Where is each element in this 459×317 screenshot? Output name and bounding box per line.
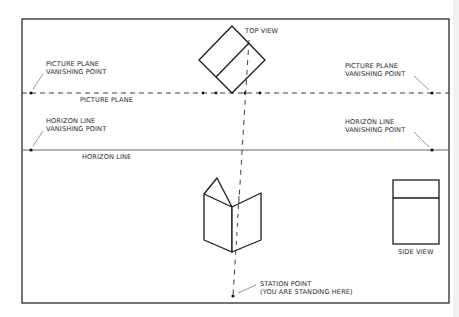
top-view-label: TOP VIEW [245,27,278,35]
side-view-label: SIDE VIEW [398,248,434,256]
hl-vanishing-point-right [430,148,433,151]
side-view-shape [393,180,439,244]
perspective-diagram: TOP VIEW PICTURE PLANE VANISHING POINT P… [0,0,459,317]
hl-vp-right-label-line1: HORIZON LINE [345,118,394,126]
hl-vanishing-point-left [29,148,32,151]
picture-plane-label: PICTURE PLANE [80,96,133,104]
station-point [231,294,234,297]
hl-vp-left-label-line2: VANISHING POINT [46,125,106,133]
pp-vp-right-label-line2: VANISHING POINT [345,70,405,78]
pp-intersection-dot-2 [215,92,218,95]
pp-vp-left-label-line1: PICTURE PLANE [46,60,99,68]
pp-vanishing-point-right [430,91,433,94]
pp-vanishing-point-left [29,91,32,94]
station-point-label-line2: (YOU ARE STANDING HERE) [260,288,353,296]
pp-intersection-dot-1 [202,92,205,95]
hl-vp-right-leader [414,132,429,147]
pp-vp-left-leader [33,74,43,89]
diagram-canvas [0,0,459,317]
horizon-line-label: HORIZON LINE [82,153,131,161]
station-point-leader [238,285,256,293]
pp-vp-right-label-line1: PICTURE PLANE [345,62,398,70]
pp-vp-right-leader [414,76,429,90]
station-point-label-line1: STATION POINT [260,280,311,288]
pp-intersection-dot-4 [259,92,262,95]
perspective-box [204,178,261,252]
hl-vp-left-label-line1: HORIZON LINE [46,117,95,125]
hl-vp-left-leader [33,131,43,146]
top-view-shape [199,26,265,93]
pp-vp-left-label-line2: VANISHING POINT [46,68,106,76]
hl-vp-right-label-line2: VANISHING POINT [345,126,405,134]
